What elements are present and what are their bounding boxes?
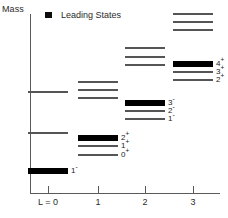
energy-level-bar bbox=[173, 29, 213, 31]
energy-level-bar bbox=[125, 56, 165, 58]
energy-level-bar bbox=[28, 91, 68, 93]
energy-level-bar bbox=[173, 13, 213, 15]
x-axis-tick-3 bbox=[193, 186, 194, 194]
energy-level-label: 2+ bbox=[216, 76, 224, 84]
energy-level-bar bbox=[173, 71, 213, 73]
y-axis-title: Mass bbox=[2, 4, 24, 14]
energy-level-label: 1- bbox=[168, 115, 175, 123]
filled-square-marker-icon bbox=[45, 12, 52, 18]
x-tick-label-0: L = 0 bbox=[38, 197, 58, 207]
x-tick-label-3: 3 bbox=[190, 197, 195, 207]
energy-level-bar bbox=[125, 47, 165, 49]
energy-level-bar bbox=[78, 81, 118, 83]
energy-level-bar bbox=[78, 154, 118, 156]
energy-level-bar bbox=[173, 21, 213, 23]
energy-level-bar bbox=[78, 89, 118, 91]
x-tick-label-1: 1 bbox=[95, 197, 100, 207]
energy-level-label: 0+ bbox=[121, 151, 129, 159]
energy-level-chart: Mass Leading States L = 0123 1-2+1+0+3-2… bbox=[0, 0, 228, 218]
energy-level-bar bbox=[28, 168, 68, 174]
y-axis-line bbox=[30, 14, 31, 193]
energy-level-bar bbox=[173, 61, 213, 67]
x-tick-label-2: 2 bbox=[142, 197, 147, 207]
energy-level-bar bbox=[78, 97, 118, 99]
x-axis-tick-1 bbox=[98, 186, 99, 194]
energy-level-bar bbox=[28, 132, 68, 134]
legend: Leading States bbox=[45, 10, 121, 20]
energy-level-bar bbox=[78, 145, 118, 147]
energy-level-bar bbox=[173, 79, 213, 81]
energy-level-bar bbox=[125, 118, 165, 120]
x-axis-tick-0 bbox=[48, 186, 49, 194]
legend-label: Leading States bbox=[61, 10, 121, 20]
energy-level-bar bbox=[125, 100, 165, 106]
energy-level-bar bbox=[125, 110, 165, 112]
x-axis-tick-2 bbox=[145, 186, 146, 194]
energy-level-label: 1- bbox=[71, 167, 78, 175]
energy-level-bar bbox=[78, 135, 118, 141]
energy-level-bar bbox=[125, 64, 165, 66]
x-axis-line bbox=[30, 193, 220, 194]
